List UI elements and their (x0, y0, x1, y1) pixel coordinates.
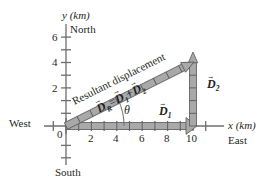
y-tick-label-4: 4 (52, 57, 58, 68)
x-tick-label-8: 8 (164, 133, 170, 144)
d1-label-symbol: D (159, 105, 168, 117)
d2-label-subscript: 2 (216, 84, 220, 93)
x-tick-label-6: 6 (139, 133, 145, 144)
x-axis-label: x (km) (228, 120, 256, 131)
vector-d1-label: D1 (159, 105, 171, 120)
compass-east-label: East (228, 135, 247, 146)
compass-south-label: South (55, 167, 81, 178)
vector-d2-arrowhead (188, 52, 197, 63)
vector-d2-label: D2 (207, 78, 219, 93)
compass-north-label: North (70, 24, 96, 35)
x-tick-label-10: 10 (186, 133, 197, 144)
d1-label-subscript: 1 (168, 111, 172, 120)
angle-theta-label: θ (124, 104, 130, 116)
origin-label: 0 (57, 129, 63, 140)
d2-label-symbol: D (207, 78, 216, 90)
y-axis (61, 24, 71, 165)
y-tick-label-6: 6 (52, 32, 58, 43)
figure-canvas: y (km) North South West East x (km) 0 2 … (0, 0, 272, 189)
y-tick-label-2: 2 (52, 83, 58, 94)
x-tick-label-2: 2 (88, 133, 94, 144)
compass-west-label: West (9, 118, 31, 129)
y-axis-label: y (km) (62, 10, 90, 21)
x-tick-label-4: 4 (113, 133, 119, 144)
